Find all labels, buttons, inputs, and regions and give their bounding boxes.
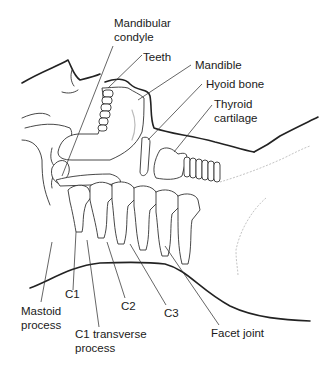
label-teeth: Teeth	[143, 50, 171, 64]
label-c3: C3	[164, 306, 179, 320]
label-c1-transverse-process: C1 transverse process	[75, 327, 147, 355]
cervical-vertebrae	[68, 182, 200, 264]
trachea-hatching	[220, 146, 310, 182]
neck-front-contour	[22, 140, 50, 205]
label-hyoid-bone: Hyoid bone	[206, 77, 264, 91]
label-mandibular-condyle: Mandibular condyle	[114, 16, 171, 44]
face-profile	[22, 60, 100, 83]
mouth-line	[62, 90, 78, 93]
anatomy-diagram: Mandibular condyle Teeth Mandible Hyoid …	[0, 0, 326, 375]
label-c2: C2	[121, 299, 136, 313]
vertebra-c1	[68, 185, 92, 232]
chin-line	[22, 113, 50, 118]
label-mastoid-process: Mastoid process	[21, 304, 61, 332]
label-facet-joint: Facet joint	[211, 326, 264, 340]
thyroid-cartilage-shape	[154, 148, 187, 179]
hyoid-bone-shape	[140, 137, 150, 175]
label-mandible: Mandible	[195, 58, 242, 72]
trachea-rings	[184, 157, 220, 182]
label-thyroid-cartilage: Thyroid cartilage	[214, 97, 257, 125]
vertebra-c6	[178, 194, 200, 264]
posterior-neck-hatching	[236, 198, 266, 276]
label-c1: C1	[65, 287, 80, 301]
